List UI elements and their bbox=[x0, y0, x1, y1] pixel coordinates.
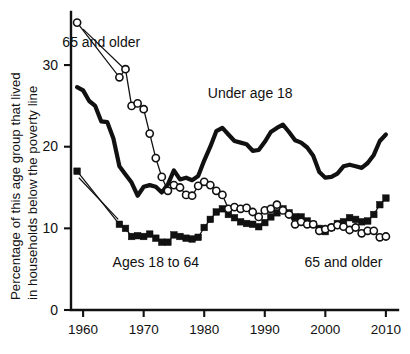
x-tick-label: 2000 bbox=[310, 322, 340, 337]
data-point-marker bbox=[159, 239, 166, 246]
data-point-marker bbox=[134, 232, 141, 239]
data-point-marker bbox=[122, 225, 129, 232]
data-point-marker bbox=[140, 106, 147, 113]
data-point-marker bbox=[352, 216, 359, 223]
data-point-marker bbox=[358, 219, 365, 226]
y-axis-title-line-2: in households below the poverty line bbox=[25, 86, 40, 300]
data-point-marker bbox=[285, 211, 292, 218]
data-point-marker bbox=[116, 74, 123, 81]
y-tick-label: 30 bbox=[42, 57, 58, 73]
data-point-marker bbox=[116, 221, 123, 228]
data-point-marker bbox=[134, 100, 141, 107]
poverty-rate-line-chart: Percentage of this age group that lived … bbox=[0, 0, 410, 354]
data-point-marker bbox=[255, 223, 262, 230]
data-point-marker bbox=[255, 213, 262, 220]
chart-container: Percentage of this age group that lived … bbox=[0, 0, 410, 354]
x-tick-label: 1980 bbox=[189, 322, 219, 337]
data-point-marker bbox=[146, 231, 153, 238]
data-point-marker bbox=[383, 195, 390, 202]
data-point-marker bbox=[243, 220, 250, 227]
annotation-under-age-18: Under age 18 bbox=[208, 85, 293, 101]
data-point-marker bbox=[201, 224, 208, 231]
data-point-marker bbox=[177, 233, 184, 240]
data-point-marker bbox=[74, 19, 81, 26]
data-point-marker bbox=[122, 66, 129, 73]
data-point-marker bbox=[377, 201, 384, 208]
data-point-marker bbox=[268, 214, 275, 221]
data-point-marker bbox=[231, 214, 238, 221]
data-point-marker bbox=[346, 214, 353, 221]
annotation-ages-18-to-64: Ages 18 to 64 bbox=[113, 254, 200, 270]
series-under-age-18 bbox=[77, 87, 386, 196]
data-point-marker bbox=[195, 234, 202, 241]
data-point-marker bbox=[171, 232, 178, 239]
data-point-marker bbox=[183, 235, 190, 242]
data-point-marker bbox=[189, 236, 196, 243]
annotation-layer: 65 and olderUnder age 18Ages 18 to 6465 … bbox=[62, 34, 382, 270]
y-axis-title-line-1: Percentage of this age group that lived bbox=[8, 72, 23, 300]
data-point-marker bbox=[273, 201, 280, 208]
annotation-65-and-older-bottom: 65 and older bbox=[305, 254, 383, 270]
data-point-marker bbox=[364, 218, 371, 225]
x-tick-label: 1990 bbox=[250, 322, 280, 337]
data-point-marker bbox=[262, 219, 269, 226]
data-point-marker bbox=[370, 227, 377, 234]
data-point-marker bbox=[153, 235, 160, 242]
data-point-marker bbox=[352, 224, 359, 231]
data-point-marker bbox=[189, 192, 196, 199]
series-path bbox=[77, 87, 386, 196]
y-axis-title: Percentage of this age group that lived … bbox=[8, 72, 40, 300]
x-tick-label: 1970 bbox=[129, 322, 159, 337]
data-point-marker bbox=[140, 233, 147, 240]
data-point-marker bbox=[249, 221, 256, 228]
x-axis-tick-labels: 196019701980199020002010 bbox=[68, 322, 401, 337]
data-point-marker bbox=[165, 239, 172, 246]
y-tick-label: 20 bbox=[42, 138, 58, 154]
annotation-65-and-older-top: 65 and older bbox=[62, 34, 140, 50]
data-point-marker bbox=[128, 233, 135, 240]
data-series-layer bbox=[74, 19, 390, 246]
x-tick-label: 2010 bbox=[371, 322, 401, 337]
data-point-marker bbox=[207, 216, 214, 223]
data-point-marker bbox=[158, 173, 165, 180]
data-point-marker bbox=[74, 168, 81, 175]
annotation-leader-lines bbox=[79, 29, 126, 219]
data-point-marker bbox=[213, 209, 220, 216]
x-tick-label: 1960 bbox=[68, 322, 98, 337]
y-tick-label: 10 bbox=[42, 220, 58, 236]
data-point-marker bbox=[310, 221, 317, 228]
data-point-marker bbox=[371, 211, 378, 218]
y-axis-tick-labels: 0102030 bbox=[42, 57, 58, 318]
data-point-marker bbox=[382, 233, 389, 240]
data-point-marker bbox=[176, 184, 183, 191]
data-point-marker bbox=[219, 191, 226, 198]
data-point-marker bbox=[207, 182, 214, 189]
data-point-marker bbox=[164, 187, 171, 194]
data-point-marker bbox=[152, 155, 159, 162]
series-65-and-older bbox=[74, 19, 390, 241]
y-tick-label: 0 bbox=[50, 302, 58, 318]
data-point-marker bbox=[146, 130, 153, 137]
data-point-marker bbox=[237, 219, 244, 226]
